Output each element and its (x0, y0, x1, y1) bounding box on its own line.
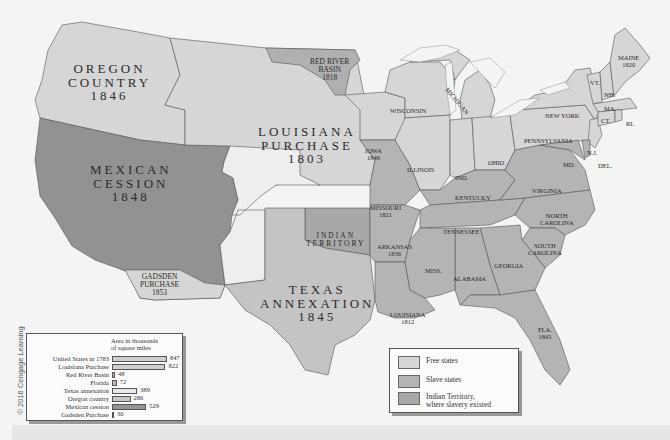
label-year: 1836 (377, 251, 412, 258)
label-line: OREGON (68, 62, 151, 76)
label-oregon-country: OREGON COUNTRY 1846 (68, 62, 151, 103)
label-line: TEXAS (260, 283, 375, 297)
area-chart-inset: Area in thousands of square miles United… (26, 333, 183, 421)
label-north-carolina: NORTHCAROLINA (540, 213, 574, 227)
chart-bar (112, 412, 114, 418)
label-de: DEL. (598, 163, 612, 170)
chart-category-label: Louisiana Purchase (29, 363, 109, 370)
label-line: MEXICAN (90, 163, 172, 177)
chart-row: Mexican cession529 (27, 403, 182, 411)
label-ohio: OHIO (488, 160, 504, 167)
chart-row: Louisiana Purchase822 (27, 363, 182, 371)
label-louisiana: LOUISIANA1812 (390, 312, 425, 326)
chart-bar (112, 380, 117, 386)
label-illinois: ILLINOIS (407, 167, 434, 174)
state-mississippi (405, 228, 455, 298)
chart-value-label: 847 (170, 354, 180, 361)
chart-value-label: 72 (120, 378, 127, 385)
label-year: 1845 (260, 310, 375, 324)
label-ri: RI. (626, 121, 634, 128)
label-ct: CT. (601, 118, 610, 125)
label-gadsden-purchase: GADSDEN PURCHASE 1853 (140, 273, 179, 297)
label-louisiana-purchase: LOUISIANA PURCHASE 1803 (258, 125, 356, 166)
legend-swatch (398, 375, 420, 388)
chart-title-line: of square miles (111, 344, 158, 351)
label-year: 1818 (310, 74, 349, 82)
label-nh: NH. (604, 92, 615, 99)
chart-row: Gadsden Purchase30 (27, 411, 182, 419)
chart-category-label: United States in 1783 (29, 355, 109, 362)
chart-row: Red River Basin48 (27, 371, 182, 379)
label-year: 1821 (370, 212, 401, 219)
legend-label: Slave states (426, 376, 461, 384)
label-year: 1812 (390, 319, 425, 326)
map-legend: Free states Slave states Indian Territor… (389, 348, 519, 413)
label-south-carolina: SOUTHCAROLINA (528, 243, 562, 257)
label-nj: N.J. (587, 150, 597, 157)
label-line: CAROLINA (528, 250, 562, 257)
chart-value-label: 822 (168, 362, 178, 369)
label-vt: VT. (590, 80, 600, 87)
chart-title: Area in thousands of square miles (111, 337, 158, 351)
label-alabama: ALABAMA (453, 276, 486, 283)
chart-category-label: Florida (29, 379, 109, 386)
label-missouri: MISSOURI1821 (370, 205, 401, 219)
chart-value-label: 30 (117, 410, 124, 417)
label-md: MD. (563, 162, 575, 169)
label-line: LOUISIANA (258, 125, 356, 139)
label-red-river-basin: RED RIVER BASIN 1818 (310, 58, 349, 82)
chart-title-line: Area in thousands (111, 337, 158, 344)
label-line: COUNTRY (68, 76, 151, 90)
state-indiana (450, 118, 475, 178)
chart-value-label: 286 (134, 394, 144, 401)
label-texas-annexation: TEXAS ANNEXATION 1845 (260, 283, 375, 324)
label-line: CESSION (90, 177, 172, 191)
legend-label: Indian Territory, where slavery existed (426, 393, 491, 410)
label-arkansas: ARKANSAS1836 (377, 244, 412, 258)
label-year: 1820 (618, 62, 639, 69)
chart-bar (112, 396, 131, 402)
label-mexican-cession: MEXICAN CESSION 1848 (90, 163, 172, 204)
legend-swatch (398, 356, 420, 369)
label-tennessee: TENNESSEE (443, 229, 479, 236)
legend-label: Free states (426, 357, 458, 365)
chart-value-label: 48 (118, 370, 125, 377)
label-maine: MAINE1820 (618, 55, 639, 69)
legend-label-line: where slavery existed (426, 401, 491, 409)
label-year: 1803 (258, 152, 356, 166)
label-indiana: IND. (455, 175, 468, 182)
label-line: ANNEXATION (260, 297, 375, 311)
chart-category-label: Gadsden Purchase (29, 411, 109, 418)
legend-swatch (398, 392, 420, 405)
label-mississippi: MISS. (425, 268, 442, 275)
chart-bar (112, 372, 115, 378)
chart-row: Florida72 (27, 379, 182, 387)
chart-value-label: 529 (149, 402, 159, 409)
label-year: 1848 (90, 190, 172, 204)
label-line: CAROLINA (540, 220, 574, 227)
label-year: 1845 (538, 334, 552, 341)
chart-category-label: Texas annexation (29, 387, 109, 394)
label-ma: MA. (604, 106, 616, 113)
chart-value-label: 389 (140, 386, 150, 393)
label-indian-territory: INDIAN TERRITORY (306, 232, 366, 248)
label-year: 1846 (68, 89, 151, 103)
label-year: 1846 (365, 155, 382, 162)
chart-category-label: Mexican cession (29, 403, 109, 410)
copyright-credit: © 2016 Cengage Learning (16, 335, 25, 415)
chart-row: Texas annexation389 (27, 387, 182, 395)
chart-category-label: Red River Basin (29, 371, 109, 378)
label-new-york: NEW YORK (545, 113, 579, 120)
chart-bar (112, 356, 167, 362)
chart-row: United States in 1783847 (27, 355, 182, 363)
label-year: 1853 (140, 289, 179, 297)
label-florida: FLA.1845 (538, 327, 552, 341)
label-kentucky: KENTUCKY (455, 195, 491, 202)
label-line: PURCHASE (258, 139, 356, 153)
label-line: TERRITORY (306, 240, 366, 248)
label-iowa: IOWA1846 (365, 148, 382, 162)
label-virginia: VIRGINIA (532, 188, 562, 195)
label-georgia: GEORGIA (494, 263, 523, 270)
chart-category-label: Oregon country (29, 395, 109, 402)
label-pennsylvania: PENNSYLVANIA (524, 138, 573, 145)
